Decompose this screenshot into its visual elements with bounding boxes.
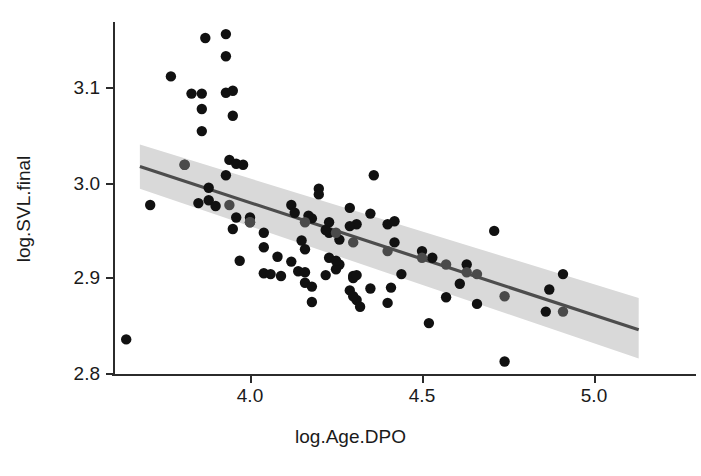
data-point — [145, 200, 155, 210]
x-tick-label: 5.0 — [581, 386, 607, 405]
scatter-plot-figure: 3.1 3.0 2.9 2.8 4.0 4.5 5.0 log.SVL.fina… — [0, 0, 701, 476]
data-point — [200, 33, 210, 43]
data-point — [228, 224, 238, 234]
y-axis-title: log.SVL.final — [13, 109, 35, 309]
data-point — [272, 252, 282, 262]
data-point — [489, 226, 499, 236]
data-point — [228, 86, 238, 96]
data-point — [355, 302, 365, 312]
data-point — [558, 306, 568, 316]
data-point — [166, 71, 176, 81]
data-point — [462, 267, 472, 277]
data-point — [210, 201, 220, 211]
x-axis-line — [112, 374, 696, 376]
data-point — [417, 253, 427, 263]
data-point — [265, 269, 275, 279]
data-point — [389, 216, 399, 226]
data-point — [300, 217, 310, 227]
data-point — [186, 88, 196, 98]
data-point — [331, 228, 341, 238]
y-tick-label: 3.0 — [74, 174, 100, 193]
data-point — [424, 318, 434, 328]
data-point — [228, 111, 238, 121]
data-point — [276, 271, 286, 281]
data-point — [204, 183, 214, 193]
data-point — [382, 246, 392, 256]
data-point — [179, 160, 189, 170]
x-tick-label: 4.0 — [237, 386, 263, 405]
data-point — [331, 256, 341, 266]
data-point — [345, 203, 355, 213]
data-point — [221, 51, 231, 61]
data-point — [321, 225, 331, 235]
data-point — [121, 334, 131, 344]
data-point — [197, 104, 207, 114]
y-axis-tick — [106, 277, 113, 279]
data-point — [221, 29, 231, 39]
data-point — [197, 126, 207, 136]
data-point — [238, 160, 248, 170]
data-point — [231, 212, 241, 222]
x-axis-title: log.Age.DPO — [0, 426, 701, 448]
data-point — [307, 281, 317, 291]
y-tick-label: 2.8 — [74, 364, 100, 383]
data-point — [348, 291, 358, 301]
data-point — [499, 356, 509, 366]
data-point — [345, 221, 355, 231]
data-point — [441, 292, 451, 302]
data-point — [259, 242, 269, 252]
data-point — [396, 269, 406, 279]
data-point — [544, 284, 554, 294]
data-point — [259, 228, 269, 238]
plot-canvas — [113, 22, 696, 374]
data-point — [365, 208, 375, 218]
data-point — [455, 279, 465, 289]
data-point — [300, 244, 310, 254]
data-point — [290, 208, 300, 218]
data-point — [369, 170, 379, 180]
data-point — [365, 283, 375, 293]
data-point — [472, 269, 482, 279]
x-axis-tick — [250, 376, 252, 383]
x-tick-label: 4.5 — [409, 386, 435, 405]
y-tick-label: 2.9 — [74, 268, 100, 287]
data-point — [321, 270, 331, 280]
y-axis-tick — [106, 87, 113, 89]
x-axis-tick — [422, 376, 424, 383]
data-point — [541, 306, 551, 316]
data-point — [351, 270, 361, 280]
data-point — [427, 253, 437, 263]
data-point — [441, 259, 451, 269]
y-tick-label: 3.1 — [74, 78, 100, 97]
data-point — [224, 200, 234, 210]
data-point — [286, 256, 296, 266]
data-point — [348, 237, 358, 247]
data-point — [197, 88, 207, 98]
data-point — [389, 237, 399, 247]
data-point — [307, 297, 317, 307]
x-axis-tick — [594, 376, 596, 383]
data-point — [558, 269, 568, 279]
data-point — [235, 256, 245, 266]
y-axis-tick — [106, 183, 113, 185]
data-point — [382, 298, 392, 308]
data-point — [245, 217, 255, 227]
data-point — [193, 198, 203, 208]
plot-area — [113, 22, 696, 374]
data-point — [386, 282, 396, 292]
data-point — [472, 299, 482, 309]
data-point — [221, 170, 231, 180]
data-point — [300, 267, 310, 277]
data-point — [314, 189, 324, 199]
data-point — [499, 291, 509, 301]
